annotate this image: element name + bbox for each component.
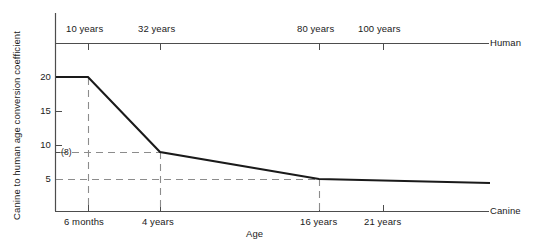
- canine-tick-label-21-years: 21 years: [364, 216, 401, 227]
- y-tick-label-15: 15: [34, 105, 51, 116]
- human-tick-label-32-years: 32 years: [138, 23, 175, 34]
- chart-figure: Canine to human age conversion coefficie…: [0, 0, 538, 251]
- human-tick-label-100-years: 100 years: [358, 23, 401, 34]
- canine-tick-label-16-years: 16 years: [300, 216, 337, 227]
- conversion-coefficient-curve: [56, 77, 490, 183]
- x-axis-title: Age: [246, 228, 263, 239]
- y-tick-label-5: 5: [34, 173, 51, 184]
- y-axis-ticks: [56, 78, 63, 180]
- y-axis-title-wrap: Canine to human age conversion coefficie…: [10, 0, 30, 251]
- canine-axis-ticks: [89, 205, 384, 212]
- canine-tick-label-6-months: 6 months: [64, 216, 104, 227]
- canine-axis-label: Canine: [490, 205, 521, 216]
- y-tick-label-10: 10: [34, 139, 51, 150]
- human-axis-ticks: [89, 44, 384, 51]
- human-tick-label-80-years: 80 years: [297, 23, 334, 34]
- canine-tick-label-4-years: 4 years: [142, 216, 174, 227]
- chart-canvas: [0, 0, 538, 251]
- annotation-8: (8): [61, 147, 72, 157]
- guide-lines-vertical: [89, 78, 320, 210]
- human-tick-label-10-years: 10 years: [66, 23, 103, 34]
- y-tick-label-20: 20: [34, 71, 51, 82]
- human-axis-label: Human: [490, 37, 521, 48]
- y-axis-title: Canine to human age conversion coefficie…: [10, 0, 24, 251]
